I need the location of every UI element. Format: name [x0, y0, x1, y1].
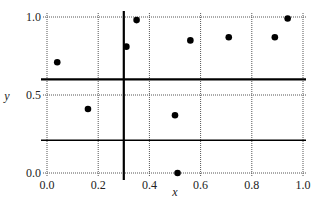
- x-axis-label: x: [171, 185, 178, 199]
- y-axis-label: y: [3, 89, 10, 103]
- data-point: [172, 112, 179, 119]
- y-tick-label: 0.5: [26, 88, 41, 102]
- x-tick-label: 0.6: [193, 178, 208, 192]
- x-tick-label: 0.8: [244, 178, 259, 192]
- y-tick-label: 1.0: [26, 10, 41, 24]
- scatter-chart: 0.00.20.40.60.81.00.00.51.0 x y: [0, 0, 316, 201]
- x-tick-label: 0.4: [142, 178, 157, 192]
- x-tick-label: 0.0: [40, 178, 55, 192]
- axis-ticks: 0.00.20.40.60.81.00.00.51.0: [26, 10, 311, 192]
- data-point: [284, 15, 291, 22]
- x-tick-label: 1.0: [296, 178, 311, 192]
- data-point: [123, 43, 130, 50]
- data-points: [54, 15, 291, 176]
- y-tick-label: 0.0: [26, 166, 41, 180]
- data-point: [85, 106, 92, 113]
- data-point: [133, 17, 140, 24]
- data-point: [272, 34, 279, 41]
- grid-lines: [43, 13, 307, 176]
- data-point: [174, 170, 181, 177]
- data-point: [225, 34, 232, 41]
- x-tick-label: 0.2: [91, 178, 106, 192]
- data-point: [54, 59, 61, 66]
- data-point: [187, 37, 194, 44]
